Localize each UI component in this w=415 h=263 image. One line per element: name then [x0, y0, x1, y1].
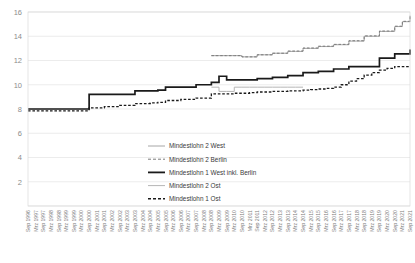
x-tick-label: Mrz 2017 [338, 210, 344, 232]
x-tick-label: Mrz 1998 [48, 210, 54, 232]
x-tick-label: Mrz 2019 [369, 210, 375, 232]
x-tick-label: Mrz 2001 [94, 210, 100, 232]
x-tick-label: Mrz 2009 [216, 210, 222, 232]
legend-group: Mindestlohn 2 WestMindestlohn 2 BerlinMi… [148, 142, 257, 202]
x-tick-label: Mrz 1999 [63, 210, 69, 232]
x-tick-label: Mrz 2015 [308, 210, 314, 232]
x-tick-label: Sep 2008 [208, 210, 214, 232]
x-tick-label: Sep 2013 [285, 210, 291, 232]
x-tick-label: Mrz 2018 [354, 210, 360, 232]
x-tick-label: Sep 2011 [254, 210, 260, 232]
x-tick-label: Sep 2019 [376, 210, 382, 232]
x-tick-label: Mrz 2013 [277, 210, 283, 232]
x-tick-label: Sep 2003 [132, 210, 138, 232]
x-tick-label: Sep 2007 [193, 210, 199, 232]
y-tick-label: 10 [14, 81, 22, 90]
x-tick-label: Mrz 1997 [33, 210, 39, 232]
x-tick-label: Mrz 2002 [109, 210, 115, 232]
x-tick-label: Sep 1996 [25, 210, 31, 232]
y-tick-label: 6 [18, 129, 22, 138]
x-tick-label: Sep 2005 [163, 210, 169, 232]
x-tick-label: Sep 1997 [40, 210, 46, 232]
x-tick-label: Mrz 2005 [155, 210, 161, 232]
y-tick-label: 12 [14, 56, 22, 65]
x-tick-label: Sep 1999 [71, 210, 77, 232]
x-tick-label: Sep 2021 [407, 210, 413, 232]
x-tick-label: Mrz 2008 [201, 210, 207, 232]
x-tick-label: Mrz 2014 [292, 210, 298, 232]
y-tick-label: 4 [18, 153, 22, 162]
x-tick-label: Sep 2014 [300, 210, 306, 232]
series-group [28, 15, 410, 111]
x-tick-label: Mrz 2016 [323, 210, 329, 232]
legend-label: Mindestlohn 1 Ost [169, 195, 221, 202]
y-tick-label: 16 [14, 8, 22, 17]
series-line [28, 50, 410, 109]
x-tick-label: Mrz 2000 [78, 210, 84, 232]
legend-label: Mindestlohn 2 Berlin [169, 156, 227, 163]
x-tick-label: Mrz 2011 [247, 210, 253, 231]
line-chart: 246810121416 Sep 1996Mrz 1997Sep 1997Mrz… [0, 0, 415, 263]
x-tick-label: Mrz 2004 [140, 210, 146, 232]
x-tick-label: Sep 2020 [392, 210, 398, 232]
x-tick-label: Sep 1998 [56, 210, 62, 232]
legend-label: Mindestlohn 1 West inkl. Berlin [169, 169, 257, 176]
y-axis-labels-group: 246810121416 [14, 8, 22, 187]
legend-label: Mindestlohn 2 West [169, 142, 225, 149]
x-tick-label: Mrz 2020 [384, 210, 390, 232]
x-tick-label: Mrz 2012 [262, 210, 268, 232]
x-tick-label: Sep 2009 [224, 210, 230, 232]
x-tick-label: Mrz 2003 [124, 210, 130, 232]
series-line [211, 87, 303, 91]
x-tick-label: Sep 2001 [101, 210, 107, 232]
chart-container: 246810121416 Sep 1996Mrz 1997Sep 1997Mrz… [0, 0, 415, 263]
x-tick-label: Mrz 2007 [185, 210, 191, 232]
x-tick-label: Sep 2004 [147, 210, 153, 232]
legend-label: Mindestlohn 2 Ost [169, 182, 221, 189]
x-tick-label: Mrz 2010 [231, 210, 237, 232]
x-tick-label: Sep 2018 [361, 210, 367, 232]
x-axis-labels-group: Sep 1996Mrz 1997Sep 1997Mrz 1998Sep 1998… [25, 210, 413, 232]
y-tick-label: 14 [14, 32, 22, 41]
y-tick-label: 8 [18, 105, 22, 114]
x-tick-label: Sep 2016 [331, 210, 337, 232]
x-tick-label: Sep 2000 [86, 210, 92, 232]
x-tick-label: Sep 2002 [117, 210, 123, 232]
x-tick-label: Sep 2017 [346, 210, 352, 232]
x-tick-label: Mrz 2021 [399, 210, 405, 232]
x-tick-label: Sep 2012 [269, 210, 275, 232]
x-tick-label: Sep 2015 [315, 210, 321, 232]
x-tick-label: Sep 2010 [239, 210, 245, 232]
x-tick-label: Sep 2006 [178, 210, 184, 232]
y-tick-label: 2 [18, 178, 22, 187]
x-tick-label: Mrz 2006 [170, 210, 176, 232]
